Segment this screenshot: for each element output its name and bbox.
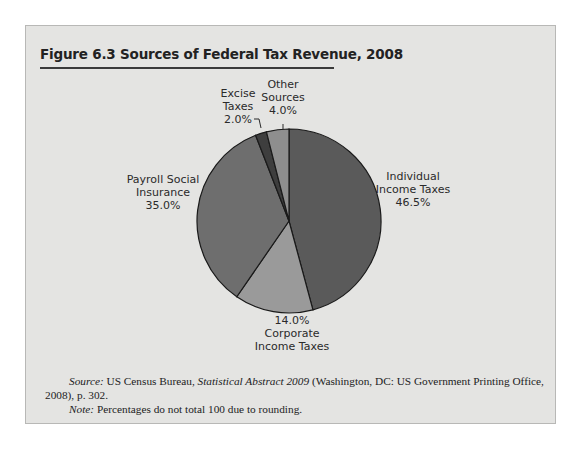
data-label-line: Income Taxes bbox=[255, 340, 330, 353]
data-label-line: Sources bbox=[261, 91, 305, 104]
data-label-line: Excise bbox=[221, 87, 256, 100]
data-label-corporate-income-taxes: 14.0%CorporateIncome Taxes bbox=[255, 314, 330, 353]
pie-chart: IndividualIncome Taxes46.5%14.0%Corporat… bbox=[0, 0, 579, 452]
data-label-payroll-social-insurance: Payroll SocialInsurance35.0% bbox=[127, 173, 200, 212]
data-label-line: Insurance bbox=[136, 186, 190, 199]
data-label-line: 2.0% bbox=[224, 113, 252, 126]
data-label-line: Corporate bbox=[265, 327, 320, 340]
data-label-line: 46.5% bbox=[396, 196, 431, 209]
data-label-line: 35.0% bbox=[146, 199, 181, 212]
data-label-line: Other bbox=[267, 78, 299, 91]
data-label-individual-income-taxes: IndividualIncome Taxes46.5% bbox=[376, 170, 451, 209]
data-label-line: 14.0% bbox=[275, 314, 310, 327]
data-label-other-sources: OtherSources4.0% bbox=[261, 78, 305, 117]
data-label-line: Payroll Social bbox=[127, 173, 200, 186]
data-label-line: Individual bbox=[386, 170, 440, 183]
data-label-line: Taxes bbox=[222, 100, 254, 113]
data-label-line: Income Taxes bbox=[376, 183, 451, 196]
data-label-excise-taxes: ExciseTaxes2.0% bbox=[221, 87, 256, 126]
data-label-line: 4.0% bbox=[269, 104, 297, 117]
leader-line-excise bbox=[254, 119, 261, 128]
